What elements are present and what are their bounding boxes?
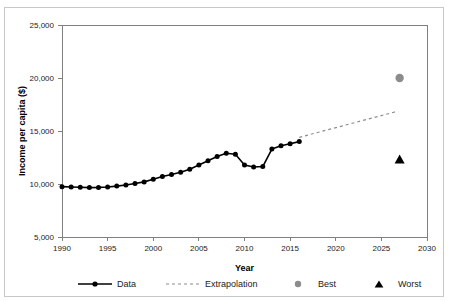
y-tick-label-15000: 15,000 (30, 127, 55, 136)
series-worst (395, 155, 405, 164)
x-axis-title: Year (235, 263, 255, 273)
legend-best-circle-icon (295, 281, 301, 287)
y-tick-label-25000: 25,000 (30, 21, 55, 30)
y-tick-label-5000: 5,000 (34, 233, 55, 242)
data-point-marker (178, 170, 183, 175)
x-axis-ticks (62, 237, 427, 241)
data-point-marker (69, 184, 74, 189)
data-point-marker (187, 167, 192, 172)
data-point-marker (279, 143, 284, 148)
x-tick-label-2020: 2020 (327, 244, 345, 253)
x-tick-label-2030: 2030 (418, 244, 436, 253)
legend-worst-triangle-icon (375, 280, 384, 287)
data-point-marker (288, 141, 293, 146)
x-axis-tick-labels: 1990 1995 2000 2005 2010 2015 2020 2025 … (53, 244, 436, 253)
x-tick-label-2005: 2005 (190, 244, 208, 253)
data-point-marker (60, 184, 65, 189)
series-line-extrapolation (299, 112, 395, 137)
x-tick-label-2025: 2025 (373, 244, 391, 253)
data-point-marker (269, 147, 274, 152)
data-point-marker (87, 185, 92, 190)
plot-axes (62, 25, 427, 237)
series-data (60, 139, 302, 190)
series-best (395, 74, 403, 82)
y-tick-label-10000: 10,000 (30, 180, 55, 189)
chart-legend: Data Extrapolation Best Worst (78, 279, 422, 289)
data-point-marker (114, 184, 119, 189)
y-tick-label-20000: 20,000 (30, 74, 55, 83)
chart-container: 25,000 20,000 15,000 10,000 5,000 1990 1… (0, 0, 449, 301)
data-point-marker (160, 174, 165, 179)
best-scenario-marker (395, 74, 403, 82)
series-extrapolation (299, 112, 395, 137)
y-axis-ticks (58, 25, 62, 237)
legend-item-data[interactable]: Data (78, 279, 136, 289)
data-point-marker (105, 184, 110, 189)
data-point-marker (78, 185, 83, 190)
data-point-marker (251, 165, 256, 170)
x-tick-label-2010: 2010 (236, 244, 254, 253)
x-tick-label-1990: 1990 (53, 244, 71, 253)
data-point-marker (96, 185, 101, 190)
data-series-layer (60, 74, 405, 190)
data-point-marker (169, 172, 174, 177)
legend-label-data: Data (117, 279, 136, 289)
x-tick-label-2015: 2015 (281, 244, 299, 253)
worst-scenario-marker (395, 155, 405, 164)
y-axis-title: Income per capita ($) (17, 86, 27, 176)
plot-area-border (62, 25, 427, 237)
data-point-marker (215, 154, 220, 159)
legend-label-extrapolation: Extrapolation (205, 279, 258, 289)
income-per-capita-line-chart: 25,000 20,000 15,000 10,000 5,000 1990 1… (0, 0, 449, 301)
legend-item-worst[interactable]: Worst (375, 279, 422, 289)
data-point-marker (123, 183, 128, 188)
data-point-marker (206, 158, 211, 163)
data-point-marker (196, 162, 201, 167)
data-point-marker (260, 164, 265, 169)
legend-label-worst: Worst (398, 279, 422, 289)
data-point-marker (151, 177, 156, 182)
data-point-marker (242, 162, 247, 167)
y-axis-tick-labels: 25,000 20,000 15,000 10,000 5,000 (30, 21, 55, 242)
data-point-marker (133, 181, 138, 186)
x-tick-label-1995: 1995 (99, 244, 117, 253)
data-point-marker (233, 152, 238, 157)
data-point-marker (224, 151, 229, 156)
legend-data-marker-icon (92, 281, 97, 286)
legend-label-best: Best (318, 279, 337, 289)
legend-item-best[interactable]: Best (295, 279, 337, 289)
x-tick-label-2000: 2000 (144, 244, 162, 253)
legend-item-extrapolation[interactable]: Extrapolation (166, 279, 258, 289)
data-point-marker (297, 139, 302, 144)
data-point-marker (142, 179, 147, 184)
